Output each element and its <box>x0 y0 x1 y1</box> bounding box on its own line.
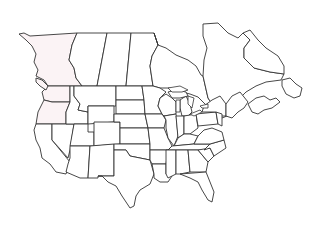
region-south-dakota <box>116 100 145 114</box>
region-arizona <box>66 146 90 178</box>
region-mississippi <box>166 150 176 178</box>
region-arkansas <box>150 150 168 164</box>
lake-michigan <box>176 100 180 112</box>
region-ohio <box>184 114 198 134</box>
region-maritimes <box>248 96 280 114</box>
region-oregon <box>36 100 70 124</box>
lake-ontario <box>200 104 208 108</box>
region-new-mexico <box>88 144 114 178</box>
region-utah <box>70 124 94 146</box>
region-wyoming <box>88 106 114 124</box>
region-florida <box>180 172 214 202</box>
north-america-outline-map <box>0 0 319 228</box>
region-newfoundland-island <box>282 78 302 98</box>
region-kansas <box>120 128 150 144</box>
region-colorado <box>94 122 120 146</box>
region-iowa <box>145 114 166 128</box>
region-pennsylvania <box>196 112 218 126</box>
region-north-dakota <box>116 86 144 100</box>
region-virginia <box>194 128 224 144</box>
